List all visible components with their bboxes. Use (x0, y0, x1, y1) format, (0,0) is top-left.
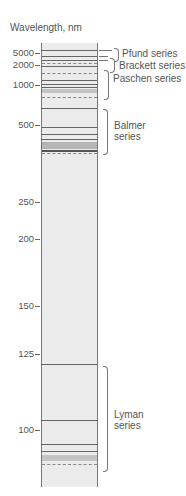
spectral-line (42, 364, 97, 365)
axis-tick: 500 (0, 120, 40, 130)
axis-tick: 250 (0, 197, 40, 207)
spectral-line (42, 150, 97, 152)
spectral-line (42, 108, 97, 109)
axis-tick: 2000 (0, 60, 40, 70)
lyman-brace (103, 366, 108, 472)
lyman-series-label: Lyman series (114, 409, 144, 431)
spectral-line (42, 87, 97, 88)
line-cluster (42, 89, 97, 93)
leader-line (99, 50, 112, 51)
line-cluster (42, 142, 97, 149)
pfund-series-label: Pfund series (122, 48, 178, 59)
brackett-brace (110, 58, 115, 73)
axis-tick: 100 (0, 425, 40, 435)
axis-title: Wavelength, nm (10, 22, 82, 33)
spectral-line (42, 60, 97, 61)
leader-line (99, 56, 108, 57)
balmer-brace (103, 109, 108, 155)
spectral-line (42, 444, 97, 445)
spectral-line (42, 84, 97, 85)
spectrum-column (41, 43, 98, 487)
leader-line (99, 60, 108, 61)
spectral-line (42, 139, 97, 140)
series-limit-line (42, 63, 97, 64)
spectral-line (42, 80, 97, 81)
axis-tick: 150 (0, 301, 40, 311)
balmer-series-label: Balmer series (114, 120, 146, 142)
axis-tick: 1000 (0, 80, 40, 90)
paschen-brace (104, 70, 109, 100)
spectral-line (42, 66, 97, 67)
spectral-line (42, 50, 97, 51)
line-cluster (42, 455, 97, 461)
spectral-line (42, 56, 97, 57)
spectral-line (42, 127, 97, 128)
axis-tick: 125 (0, 349, 40, 359)
series-limit-line (42, 153, 97, 154)
spectral-line (42, 134, 97, 135)
spectral-line (42, 451, 97, 452)
axis-tick: 200 (0, 234, 40, 244)
spectral-line (42, 420, 97, 421)
series-limit-line (42, 464, 97, 465)
paschen-series-label: Paschen series (113, 73, 181, 84)
series-limit-line (42, 97, 97, 98)
axis-tick: 5000 (0, 48, 40, 58)
series-limit-line (42, 73, 97, 74)
brackett-series-label: Brackett series (119, 60, 185, 71)
